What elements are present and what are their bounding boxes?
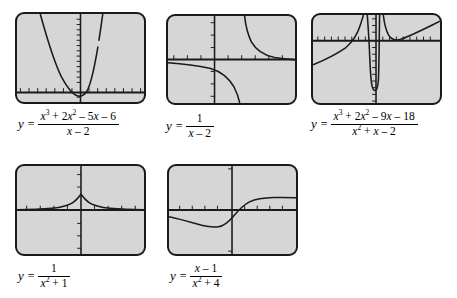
curve-rational-1 (40, 14, 103, 96)
equation-1-equals: = (28, 117, 35, 131)
equation-3-denominator: x2 + x – 2 (331, 125, 418, 138)
graph-plot-2 (168, 16, 295, 103)
graph-screen-5 (167, 164, 298, 256)
equation-4-equals: = (28, 269, 35, 283)
equation-3-fraction: x3 + 2x2 – 9x – 18x2 + x – 2 (331, 111, 418, 137)
graph-screen-3 (311, 13, 442, 105)
equation-1-denominator: x – 2 (38, 125, 119, 138)
equation-5-fraction: x – 1x2 + 4 (190, 263, 223, 289)
graph-plot-3 (313, 15, 440, 103)
curve-branch-middle (367, 15, 379, 91)
graph-screen-4 (15, 164, 146, 256)
equation-3-numerator: x3 + 2x2 – 9x – 18 (331, 111, 418, 125)
equation-5-denominator: x2 + 4 (190, 277, 223, 290)
equation-2-equals: = (176, 119, 183, 133)
curve-branch-right (383, 15, 440, 40)
equation-3-y: y (311, 116, 317, 131)
equation-3: y=x3 + 2x2 – 9x – 18x2 + x – 2 (311, 112, 418, 138)
equation-2-y: y (166, 118, 172, 133)
graph-plot-4 (17, 166, 144, 254)
equation-1-numerator: x3 + 2x2 – 5x – 6 (38, 111, 119, 125)
equation-2-denominator: x – 2 (186, 127, 214, 140)
equation-1-y: y (18, 116, 24, 131)
equation-4-fraction: 1x2 + 1 (38, 263, 71, 289)
equation-1-fraction: x3 + 2x2 – 5x – 6x – 2 (38, 111, 119, 137)
equation-2-numerator: 1 (186, 113, 214, 127)
equation-5: y=x – 1x2 + 4 (170, 264, 222, 290)
curve-right-branch (245, 16, 295, 60)
equation-3-equals: = (321, 117, 328, 131)
equation-1: y=x3 + 2x2 – 5x – 6x – 2 (18, 112, 119, 138)
equation-5-y: y (170, 268, 176, 283)
equation-2: y=1x – 2 (166, 114, 214, 140)
equation-4-numerator: 1 (38, 263, 71, 277)
equation-4: y=1x2 + 1 (18, 264, 70, 290)
equation-4-y: y (18, 268, 24, 283)
equation-4-denominator: x2 + 1 (38, 277, 71, 290)
equation-5-equals: = (180, 269, 187, 283)
equation-2-fraction: 1x – 2 (186, 113, 214, 139)
graph-screen-1 (15, 12, 146, 104)
equation-5-numerator: x – 1 (190, 263, 223, 277)
graph-plot-5 (169, 166, 296, 254)
graph-screen-2 (166, 14, 297, 105)
curve-left-branch (168, 63, 240, 103)
graph-plot-1 (17, 14, 144, 102)
removable-discontinuity-gap (97, 41, 102, 47)
